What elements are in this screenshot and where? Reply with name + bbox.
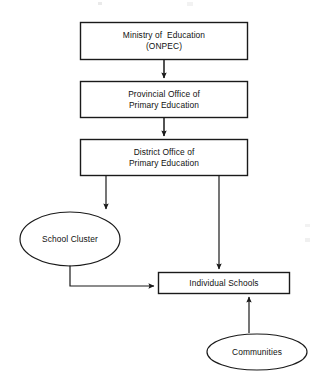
scan-artifact-top-right [187,2,193,6]
scan-artifact-top [98,2,102,5]
edge-school-cluster-to-individual-schools [70,266,154,287]
node-shape-provincial-office [81,82,248,118]
node-shape-district-office [81,140,248,176]
node-shape-school-cluster [20,212,120,266]
node-shape-communities [207,334,307,370]
scan-artifact-right-margin-lower [305,238,310,242]
scan-artifact-right-margin [305,224,310,227]
node-shape-individual-schools [159,273,290,294]
flowchart-diagram: Ministry of Education (ONPEC) Provincial… [0,0,325,372]
node-shape-ministry [81,23,248,60]
flowchart-graphics [0,0,325,372]
